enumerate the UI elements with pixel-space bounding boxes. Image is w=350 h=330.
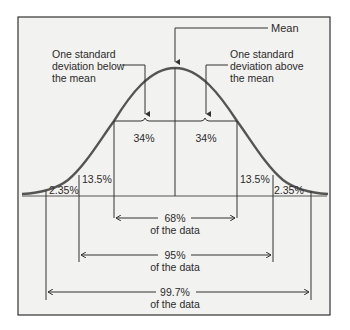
mean-label: Mean [271,22,299,34]
below-label-line3: the mean [52,72,96,84]
range-95-pct: 95% [164,249,185,261]
range-68-pct: 68% [164,212,185,224]
region-tail-left: 2.35% [49,184,79,196]
above-label-line1: One standard [230,48,294,60]
region-mid-left: 13.5% [82,173,112,185]
below-label-line1: One standard [52,48,116,60]
range-95-text: of the data [150,261,200,273]
range-997-text: of the data [150,298,200,310]
region-center-left: 34% [133,132,154,144]
above-label-line3: the mean [230,72,274,84]
above-label-line2: deviation above [230,60,304,72]
region-mid-right: 13.5% [240,173,270,185]
region-center-right: 34% [195,132,216,144]
normal-distribution-diagram: Mean One standard deviation below the me… [0,0,350,330]
range-68-text: of the data [150,224,200,236]
region-tail-right: 2.35% [274,184,304,196]
range-997-pct: 99.7% [160,286,190,298]
below-label-line2: deviation below [52,60,125,72]
